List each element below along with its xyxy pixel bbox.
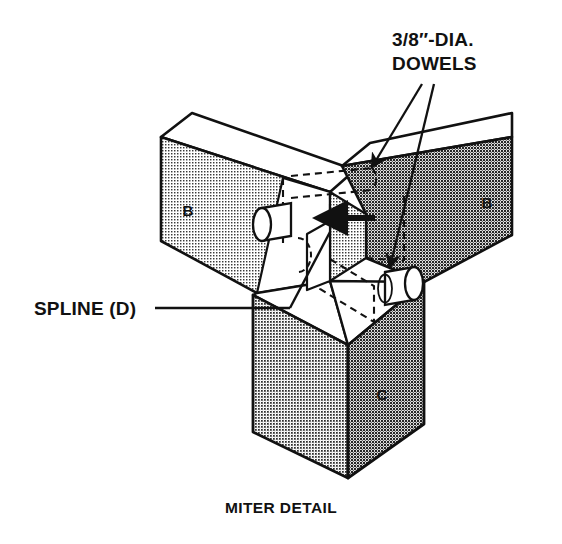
- dowel-pin-left: [253, 203, 291, 241]
- dowel-left-end-cap: [253, 208, 271, 241]
- part-label-left-arm: B: [183, 202, 194, 219]
- part-label-right-arm: B: [482, 194, 493, 211]
- part-label-post: C: [377, 386, 388, 403]
- figure-caption: MITER DETAIL: [225, 499, 337, 516]
- dowels-label-line2: DOWELS: [392, 53, 477, 74]
- miter-detail-figure: B B C: [0, 0, 562, 544]
- dowel-pin-right: [378, 267, 423, 305]
- dowel-right-end-cap: [405, 267, 423, 300]
- spline-label: SPLINE (D): [34, 298, 136, 319]
- dowels-label-line1: 3/8″-DIA.: [392, 29, 474, 50]
